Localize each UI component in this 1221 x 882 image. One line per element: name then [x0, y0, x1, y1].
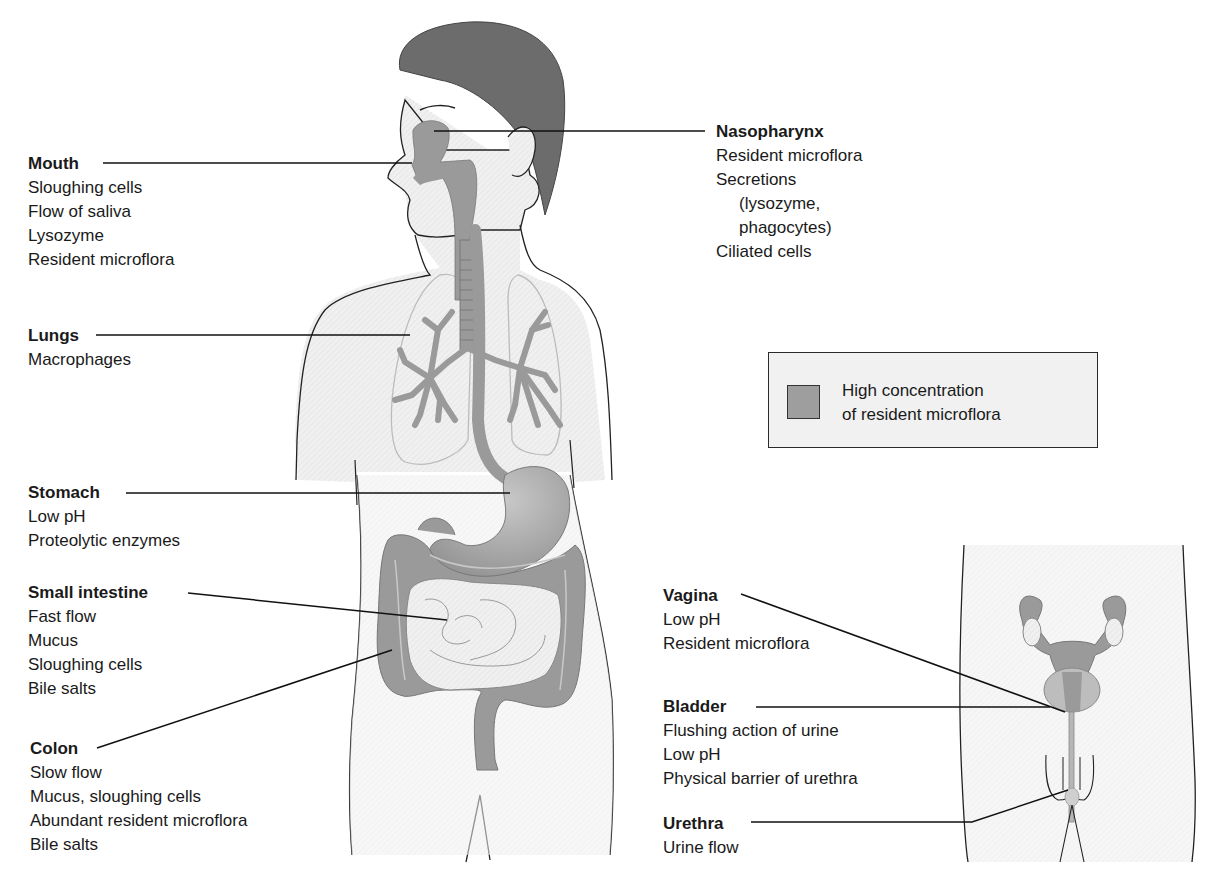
label-stomach: Stomach Low pH Proteolytic enzymes	[28, 481, 180, 553]
label-item: Flushing action of urine	[663, 719, 858, 743]
label-item: Sloughing cells	[28, 653, 148, 677]
legend-box: High concentration of resident microflor…	[768, 352, 1098, 448]
label-colon: Colon Slow flow Mucus, sloughing cells A…	[30, 737, 247, 857]
label-item: Resident microflora	[663, 632, 809, 656]
legend-line-2: of resident microflora	[842, 403, 1001, 427]
label-small-intestine: Small intestine Fast flow Mucus Sloughin…	[28, 581, 148, 701]
main-body-figure	[295, 22, 613, 862]
label-item: Secretions	[716, 168, 862, 192]
label-item: Proteolytic enzymes	[28, 529, 180, 553]
label-lungs: Lungs Macrophages	[28, 324, 131, 372]
label-title: Vagina	[663, 584, 809, 608]
label-title: Nasopharynx	[716, 120, 862, 144]
label-item: Resident microflora	[716, 144, 862, 168]
label-item: Mucus	[28, 629, 148, 653]
label-title: Mouth	[28, 152, 174, 176]
anatomy-diagram: Mouth Sloughing cells Flow of saliva Lys…	[0, 0, 1221, 882]
label-item: Lysozyme	[28, 224, 174, 248]
label-item: (lysozyme,	[716, 192, 862, 216]
label-item: Fast flow	[28, 605, 148, 629]
label-vagina: Vagina Low pH Resident microflora	[663, 584, 809, 656]
label-item: phagocytes)	[716, 216, 862, 240]
label-title: Stomach	[28, 481, 180, 505]
label-item: Low pH	[28, 505, 180, 529]
legend-line-1: High concentration	[842, 379, 1001, 403]
label-item: Mucus, sloughing cells	[30, 785, 247, 809]
label-item: Physical barrier of urethra	[663, 767, 858, 791]
legend-text: High concentration of resident microflor…	[842, 379, 1001, 427]
label-title: Urethra	[663, 812, 739, 836]
label-mouth: Mouth Sloughing cells Flow of saliva Lys…	[28, 152, 174, 272]
label-item: Sloughing cells	[28, 176, 174, 200]
label-item: Slow flow	[30, 761, 247, 785]
label-item: Bile salts	[28, 677, 148, 701]
legend-swatch-icon	[787, 385, 820, 419]
label-item: Urine flow	[663, 836, 739, 860]
label-title: Bladder	[663, 695, 858, 719]
label-item: Low pH	[663, 608, 809, 632]
label-nasopharynx: Nasopharynx Resident microflora Secretio…	[716, 120, 862, 264]
label-title: Colon	[30, 737, 247, 761]
label-item: Resident microflora	[28, 248, 174, 272]
label-item: Macrophages	[28, 348, 131, 372]
label-item: Ciliated cells	[716, 240, 862, 264]
label-item: Low pH	[663, 743, 858, 767]
label-title: Small intestine	[28, 581, 148, 605]
label-item: Abundant resident microflora	[30, 809, 247, 833]
label-item: Bile salts	[30, 833, 247, 857]
label-item: Flow of saliva	[28, 200, 174, 224]
label-urethra: Urethra Urine flow	[663, 812, 739, 860]
label-title: Lungs	[28, 324, 131, 348]
label-bladder: Bladder Flushing action of urine Low pH …	[663, 695, 858, 791]
